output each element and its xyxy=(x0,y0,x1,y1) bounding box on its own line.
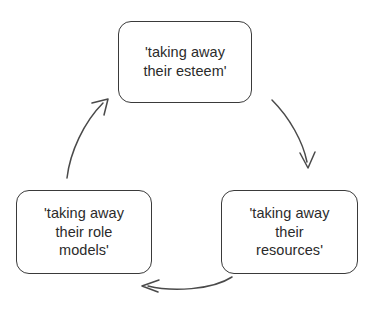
arrow-role-models-to-esteem xyxy=(67,99,108,178)
node-resources[interactable]: 'taking away their resources' xyxy=(221,190,358,274)
node-role-models-label: 'taking away their role models' xyxy=(38,204,130,261)
cycle-diagram-canvas: 'taking away their esteem' 'taking away … xyxy=(0,0,376,309)
node-resources-label: 'taking away their resources' xyxy=(244,204,336,261)
node-esteem-label: 'taking away their esteem' xyxy=(137,43,232,81)
node-esteem[interactable]: 'taking away their esteem' xyxy=(118,21,252,103)
node-role-models[interactable]: 'taking away their role models' xyxy=(16,190,152,274)
arrow-resources-to-role-models xyxy=(142,277,232,292)
arrow-esteem-to-resources xyxy=(272,100,315,168)
